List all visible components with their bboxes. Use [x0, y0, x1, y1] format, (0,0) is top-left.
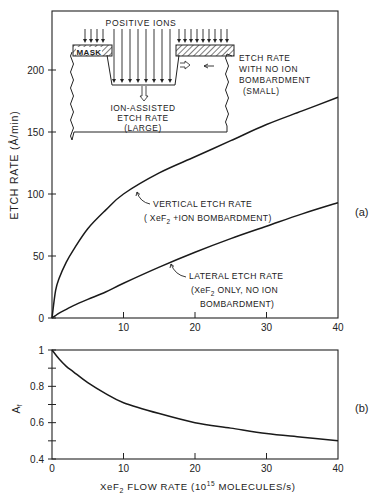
y-tick-label: 200	[27, 65, 44, 76]
lateral-etch-rate-sublabel-2: BOMBARDMENT)	[200, 299, 274, 309]
x-tick-label: 40	[332, 322, 344, 333]
x-tick-label: 0	[49, 463, 55, 474]
inset-trench	[107, 55, 179, 85]
x-tick-label: 30	[261, 463, 273, 474]
panel-a-x-ticks: 10203040	[118, 312, 344, 333]
panel-a-tag: (a)	[355, 206, 368, 218]
y-tick-label: 50	[33, 251, 45, 262]
x-tick-label: 20	[189, 322, 201, 333]
panel-b-chart: 0.40.60.81 010203040 Af (b) XeF2 FLOW RA…	[10, 345, 368, 494]
inset-no-ion-label-4: (SMALL)	[243, 86, 280, 96]
inset-down-arrow	[140, 86, 148, 101]
inset-mask-right	[176, 45, 234, 56]
lateral-etch-rate-label: LATERAL ETCH RATE	[189, 271, 284, 281]
y-tick-label: 0	[38, 313, 44, 324]
inset-mask-label: MASK	[77, 48, 102, 57]
inset-ion-assisted-label-2: ETCH RATE	[117, 113, 168, 123]
panel-b-series	[52, 350, 338, 441]
panel-b-tag: (b)	[355, 402, 368, 414]
inset-ion-assisted-label-3: (LARGE)	[124, 123, 161, 133]
y-tick-label: 100	[27, 189, 44, 200]
vertical-etch-rate-label: VERTICAL ETCH RATE	[153, 199, 252, 209]
inset-no-ion-label-2: WITH NO ION	[239, 64, 298, 74]
lateral-etch-rate-sublabel: (XeF2 ONLY, NO ION	[191, 285, 278, 297]
x-tick-label: 30	[261, 322, 273, 333]
y-tick-label: 0.4	[30, 454, 44, 465]
inset-no-ion-label-3: BOMBARDMENT	[239, 75, 311, 85]
y-tick-label: 1	[38, 345, 44, 356]
y-tick-label: 150	[27, 127, 44, 138]
panel-b-xlabel: XeF2 FLOW RATE (1015 MOLECULES/s)	[100, 480, 296, 494]
panel-b-ylabel: Af	[10, 404, 24, 414]
x-tick-label: 40	[332, 463, 344, 474]
lateral-etch-rate-annotation: LATERAL ETCH RATE (XeF2 ONLY, NO ION BOM…	[170, 264, 284, 309]
inset-ion-assisted-label: ION-ASSISTED	[110, 103, 175, 113]
inset-no-ion-label-1: ETCH RATE	[239, 53, 290, 63]
series-line-0	[52, 350, 338, 441]
panel-a-chart: 050100150200 10203040 ETCH RATE (Å/min) …	[8, 11, 368, 333]
figure-canvas: 050100150200 10203040 ETCH RATE (Å/min) …	[0, 0, 378, 504]
vertical-etch-rate-annotation: VERTICAL ETCH RATE ( XeF2 +ION BOMBARDME…	[136, 192, 272, 225]
x-tick-label: 20	[189, 463, 201, 474]
panel-a-ylabel: ETCH RATE (Å/min)	[8, 110, 20, 219]
y-tick-label: 0.6	[30, 417, 44, 428]
inset-side-arrow	[180, 61, 190, 69]
y-tick-label: 0.8	[30, 381, 44, 392]
panel-b-frame	[52, 350, 338, 459]
inset-positive-ions-label: POSITIVE IONS	[106, 18, 177, 28]
panel-b-x-ticks: 010203040	[49, 453, 344, 474]
vertical-etch-rate-sublabel: ( XeF2 +ION BOMBARDMENT)	[144, 213, 272, 225]
x-tick-label: 10	[118, 322, 130, 333]
x-tick-label: 10	[118, 463, 130, 474]
